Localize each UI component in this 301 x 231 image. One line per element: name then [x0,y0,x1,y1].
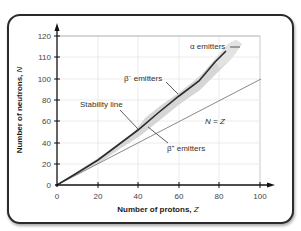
y-tick-labels: 0 20 40 60 80 100 110 120 [38,32,52,190]
beta-plus-label: β+ emitters [167,143,205,153]
n-equals-z-line [57,79,261,185]
n-equals-z-label: N = Z [205,117,226,126]
x-tick-80: 80 [215,192,224,201]
y-tick-100: 100 [38,75,52,84]
y-tick-40: 40 [42,139,51,148]
stability-pointer [120,110,138,129]
beta-minus-pointer [166,82,178,94]
y-tick-110: 110 [38,53,51,62]
nuclide-stability-chart: 0 20 40 60 80 100 0 20 40 60 80 100 110 … [0,0,301,231]
y-tick-20: 20 [42,160,51,169]
x-axis-arrow-icon [267,183,275,188]
y-tick-120: 120 [38,32,52,41]
y-tick-0: 0 [47,181,52,190]
stability-line [57,51,226,185]
x-tick-60: 60 [175,192,184,201]
beta-minus-label: β− emitters [124,73,162,83]
x-tick-40: 40 [134,192,143,201]
stability-line-label: Stability line [80,100,123,109]
x-axis-title: Number of protons, Z [117,205,199,214]
x-tick-labels: 0 20 40 60 80 100 [55,192,267,201]
y-tick-80: 80 [42,96,51,105]
x-tick-100: 100 [253,192,267,201]
alpha-emitters-label: α emitters [190,42,225,51]
y-axis-arrow-icon [55,23,60,31]
x-tick-0: 0 [55,192,60,201]
x-tick-20: 20 [94,192,103,201]
y-tick-60: 60 [42,117,51,126]
y-axis-title: Number of neutrons, N [15,66,24,153]
